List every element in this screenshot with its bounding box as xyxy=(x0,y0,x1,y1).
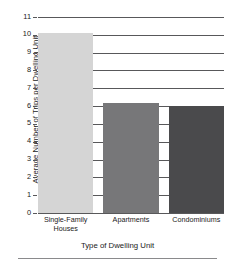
y-tick-label: 7 xyxy=(27,83,31,93)
y-tick-label: 2 xyxy=(27,172,31,182)
y-tick-label: 6 xyxy=(27,101,31,111)
y-tick-label: 4 xyxy=(27,136,31,146)
x-tick-label-line: Houses xyxy=(38,224,93,233)
x-tick-label: Condominiums xyxy=(169,215,224,224)
y-tick-mark xyxy=(33,88,37,89)
x-tick-label-group: Single-FamilyHousesApartmentsCondominium… xyxy=(38,215,224,239)
plot-area: 01234567891011 xyxy=(38,17,224,213)
y-tick-label: 11 xyxy=(23,12,31,22)
bar-chart-figure: Average Number of Trips per Dwelling Uni… xyxy=(0,0,235,265)
y-tick-label: 5 xyxy=(27,118,31,128)
y-tick-label: 8 xyxy=(27,65,31,75)
y-tick-label: 1 xyxy=(27,190,31,200)
y-tick-mark xyxy=(33,53,37,54)
x-tick-label-line: Single-Family xyxy=(38,215,93,224)
y-tick-mark xyxy=(33,142,37,143)
y-tick-mark xyxy=(33,160,37,161)
y-tick-mark xyxy=(33,106,37,107)
x-tick-label-line: Apartments xyxy=(103,215,158,224)
x-axis-title: Type of Dwelling Unit xyxy=(0,241,235,250)
y-tick-mark xyxy=(33,35,37,36)
y-tick-mark xyxy=(33,195,37,196)
y-tick-mark xyxy=(33,177,37,178)
bottom-divider xyxy=(18,258,217,259)
y-tick-mark xyxy=(33,213,37,214)
y-tick-label: 9 xyxy=(27,47,31,57)
bar xyxy=(38,33,93,213)
y-tick-mark xyxy=(33,70,37,71)
x-tick-label: Apartments xyxy=(103,215,158,224)
y-tick-mark xyxy=(33,17,37,18)
y-tick-label: 10 xyxy=(23,29,31,39)
x-tick-label-line: Condominiums xyxy=(169,215,224,224)
bar xyxy=(169,106,224,213)
x-tick-label: Single-FamilyHouses xyxy=(38,215,93,234)
bar xyxy=(103,103,158,213)
bars-group xyxy=(38,17,224,213)
y-tick-label: 3 xyxy=(27,154,31,164)
axis-baseline xyxy=(38,213,224,214)
y-tick-label: 0 xyxy=(27,208,31,218)
y-tick-mark xyxy=(33,124,37,125)
